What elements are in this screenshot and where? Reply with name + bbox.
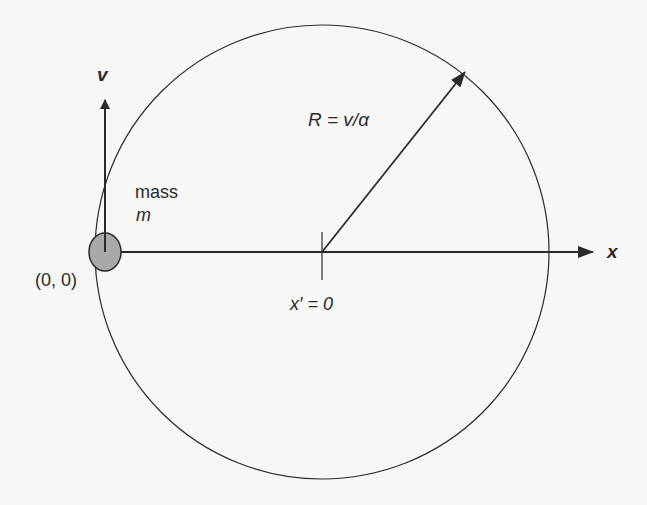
mass-symbol-label: m bbox=[136, 206, 151, 224]
center-label: x′ = 0 bbox=[290, 295, 333, 313]
x-axis-label: x bbox=[607, 242, 618, 261]
velocity-label: v bbox=[97, 65, 108, 84]
radius-arrow bbox=[322, 72, 465, 252]
radius-label: R = v/α bbox=[308, 110, 369, 129]
mass-word-label: mass bbox=[135, 183, 178, 201]
origin-label: (0, 0) bbox=[35, 271, 77, 289]
diagram-canvas: v R = v/α mass m (0, 0) x′ = 0 x bbox=[0, 0, 647, 505]
